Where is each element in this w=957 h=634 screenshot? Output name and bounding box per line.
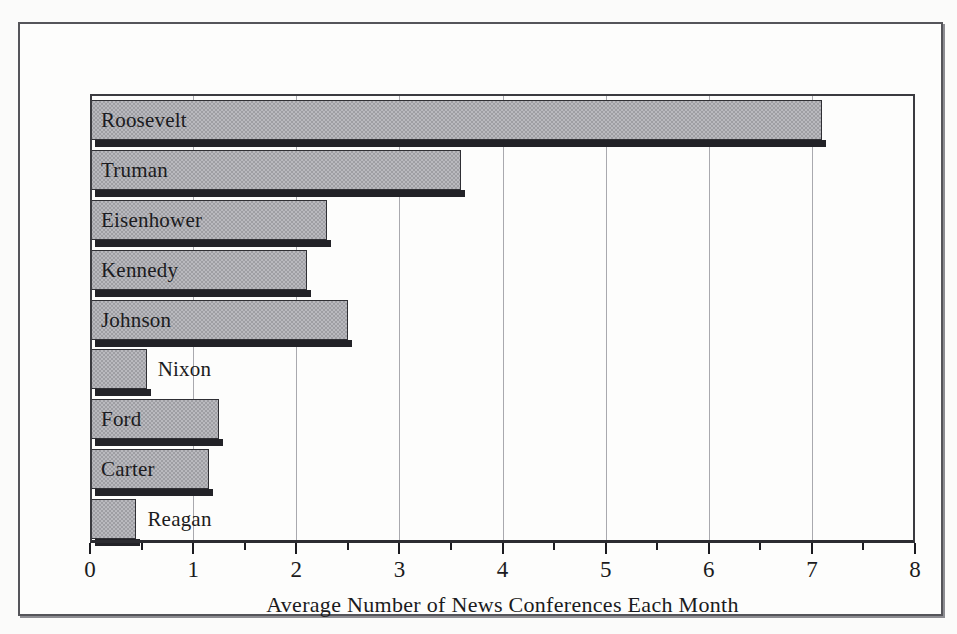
x-axis-major-tick — [811, 543, 813, 554]
x-axis-tick-label: 0 — [70, 557, 110, 583]
x-axis-tick-label: 1 — [173, 557, 213, 583]
x-axis-tick-label: 2 — [276, 557, 316, 583]
x-axis-major-tick — [605, 543, 607, 554]
bar-category-label: Truman — [101, 156, 168, 184]
x-axis-minor-tick — [862, 543, 864, 550]
bar-category-label: Carter — [101, 455, 155, 483]
bar-drop-shadow — [95, 240, 331, 247]
bar-row: Ford — [90, 399, 915, 439]
bar-row: Nixon — [90, 349, 915, 389]
x-axis-minor-tick — [244, 543, 246, 550]
bar-row: Carter — [90, 449, 915, 489]
x-axis-minor-tick — [553, 543, 555, 550]
x-axis-major-tick — [89, 543, 91, 554]
scanned-page-background: RooseveltTrumanEisenhowerKennedyJohnsonN… — [0, 0, 957, 634]
x-axis-tick-label: 5 — [586, 557, 626, 583]
x-axis-title: Average Number of News Conferences Each … — [90, 591, 915, 619]
bar-drop-shadow — [95, 190, 465, 197]
bar-category-label: Johnson — [101, 306, 171, 334]
bar-row: Reagan — [90, 499, 915, 539]
x-axis-major-tick — [295, 543, 297, 554]
x-axis-major-tick — [708, 543, 710, 554]
x-axis-major-tick — [502, 543, 504, 554]
x-axis-major-tick — [914, 543, 916, 554]
x-axis-minor-tick — [450, 543, 452, 550]
plot-area: RooseveltTrumanEisenhowerKennedyJohnsonN… — [90, 94, 915, 543]
bar-drop-shadow — [95, 340, 352, 347]
bar-row: Roosevelt — [90, 100, 915, 140]
x-axis-minor-tick — [347, 543, 349, 550]
bar-drop-shadow — [95, 489, 213, 496]
bar-row: Johnson — [90, 300, 915, 340]
bar-category-label: Nixon — [158, 355, 212, 383]
x-axis-major-tick — [398, 543, 400, 554]
bars-group: RooseveltTrumanEisenhowerKennedyJohnsonN… — [90, 94, 915, 543]
bar — [90, 100, 822, 140]
bar-row: Truman — [90, 150, 915, 190]
bar-drop-shadow — [95, 140, 826, 147]
bar-drop-shadow — [95, 389, 151, 396]
bar-category-label: Reagan — [147, 505, 211, 533]
x-axis-tick-label: 7 — [792, 557, 832, 583]
x-axis-tick-label: 3 — [379, 557, 419, 583]
bar-category-label: Ford — [101, 405, 141, 433]
bar-drop-shadow — [95, 439, 223, 446]
x-axis-minor-tick — [759, 543, 761, 550]
x-axis: 012345678 Average Number of News Confere… — [90, 543, 915, 634]
x-axis-tick-label: 8 — [895, 557, 935, 583]
bar-category-label: Roosevelt — [101, 106, 187, 134]
x-axis-major-tick — [192, 543, 194, 554]
figure-outer-frame: RooseveltTrumanEisenhowerKennedyJohnsonN… — [18, 22, 943, 616]
x-axis-tick-label: 6 — [689, 557, 729, 583]
x-axis-minor-tick — [656, 543, 658, 550]
bar-row: Eisenhower — [90, 200, 915, 240]
bar-category-label: Kennedy — [101, 256, 178, 284]
bar — [90, 349, 147, 389]
bar-row: Kennedy — [90, 250, 915, 290]
x-axis-tick-label: 4 — [483, 557, 523, 583]
x-axis-minor-tick — [141, 543, 143, 550]
bar-category-label: Eisenhower — [101, 206, 202, 234]
bar-drop-shadow — [95, 290, 311, 297]
bar — [90, 499, 136, 539]
